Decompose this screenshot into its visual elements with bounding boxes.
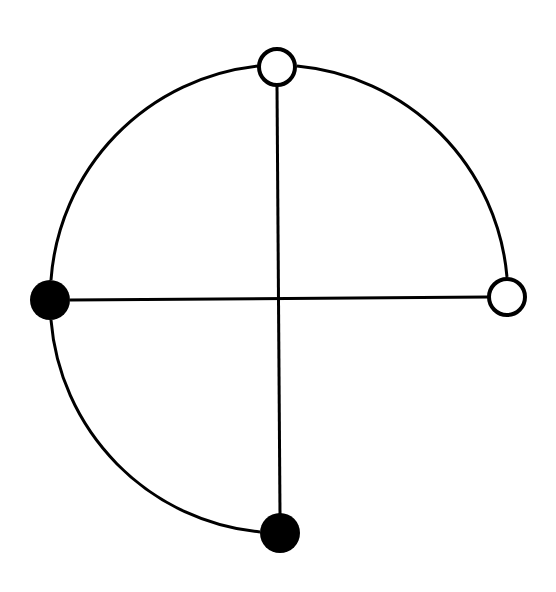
edge-left-right-line bbox=[70, 297, 488, 300]
diagram-canvas bbox=[0, 0, 556, 592]
node-right-open bbox=[489, 279, 525, 315]
node-bottom-filled bbox=[260, 513, 300, 553]
edge-top-right-arc bbox=[297, 66, 507, 277]
edge-left-bottom-arc bbox=[51, 320, 260, 532]
edge-top-left-arc bbox=[51, 66, 258, 280]
node-left-filled bbox=[30, 280, 70, 320]
node-top-open bbox=[259, 49, 295, 85]
